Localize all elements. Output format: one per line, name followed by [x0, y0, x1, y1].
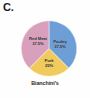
panel-letter-label: C.	[3, 2, 13, 13]
figure-panel: C. Red Meat 37.5% Poultry 37.5% Pork 25%…	[0, 0, 90, 98]
pie-chart: Red Meat 37.5% Poultry 37.5% Pork 25%	[20, 19, 78, 78]
pie-label-poultry: Poultry 37.5%	[48, 40, 72, 50]
pie-label-pork: Pork 25%	[38, 59, 60, 69]
pie-label-red-meat: Red Meat 37.5%	[27, 37, 49, 47]
pie-label-pork-value: 25%	[38, 64, 60, 69]
chart-caption: Bianchini's	[0, 80, 90, 86]
pie-label-red-meat-value: 37.5%	[27, 42, 49, 47]
pie-label-poultry-value: 37.5%	[48, 45, 72, 50]
